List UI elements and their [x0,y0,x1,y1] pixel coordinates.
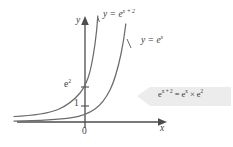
annotation-times: × [190,89,195,99]
curve-label-shifted-exponential: y = ex + 2 [103,10,135,20]
curve-label-shifted-exponent: x + 2 [123,8,135,14]
y-tick-e-exponent: 2 [68,78,71,84]
annotation-lhs-exponent: x + 2 [162,88,173,94]
annotation-equals: = [175,89,180,99]
exponential-shift-figure: y = ex + 2 y = ex y x e2 1 0 ex + 2=ex×e… [0,0,233,147]
y-axis-arrowhead [81,16,89,25]
y-tick-label-one: 1 [74,99,79,109]
identity-annotation: ex + 2=ex×e2 [158,90,203,99]
figure-canvas [0,0,233,147]
curve-exponential [14,24,126,121]
annotation-rhs-exponent-2: 2 [200,88,203,94]
curve-label-exponential: y = ex [141,36,163,46]
curve-label-exponential-prefix: y = e [141,35,161,45]
curve-label-exponential-exponent: x [161,34,164,40]
leader-line-exponential [127,39,131,48]
curve-label-shifted-prefix: y = e [103,9,123,19]
y-tick-label-e-squared: e2 [64,80,71,90]
y-axis-label: y [76,16,80,26]
x-axis-label: x [160,124,164,134]
origin-label: 0 [82,127,87,137]
annotation-rhs-exponent-1: x [185,88,188,94]
